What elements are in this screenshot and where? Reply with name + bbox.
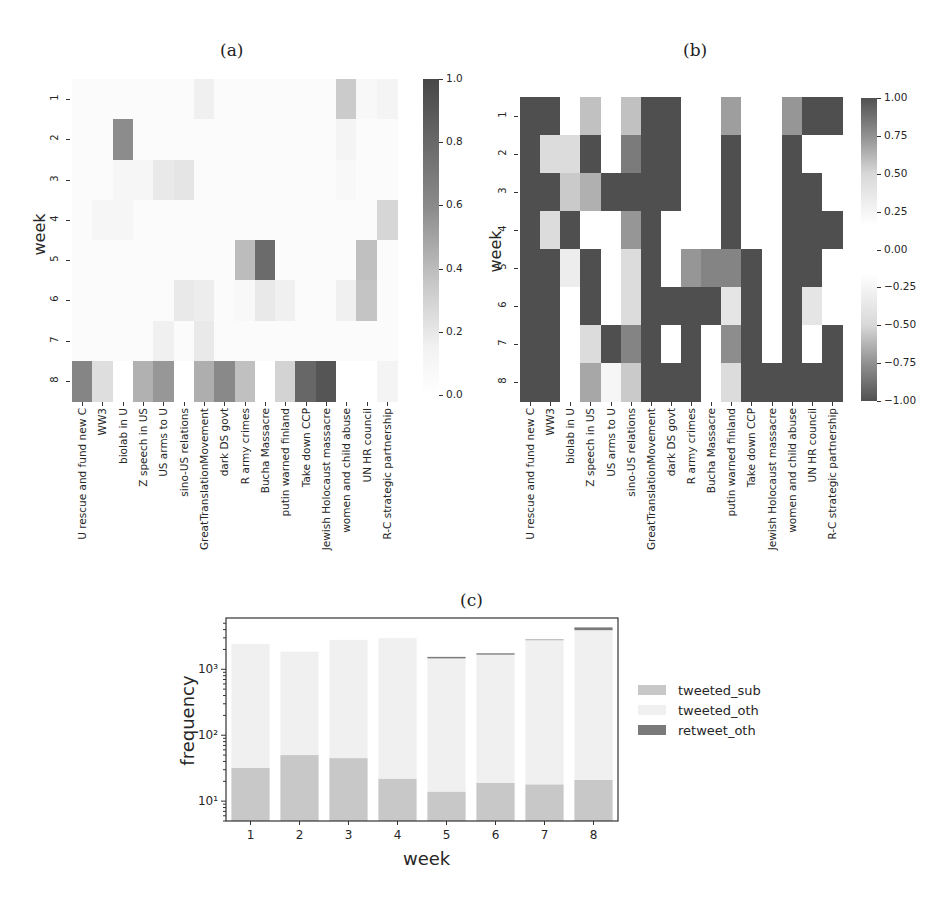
legend: tweeted_sub tweeted_oth retweet_oth — [638, 680, 761, 740]
heatmap-cell — [336, 160, 357, 201]
y-tick-mark — [514, 154, 518, 155]
heatmap-cell — [92, 119, 113, 160]
y-tick-label: 4 — [49, 212, 60, 224]
heatmap-cell — [235, 160, 256, 201]
heatmap-cell — [822, 173, 843, 212]
y-tick-mark — [66, 180, 70, 181]
x-tick-mark — [143, 402, 144, 406]
heatmap-cell — [214, 79, 235, 120]
heatmap-cell — [113, 79, 134, 120]
bar-tweeted_oth — [329, 640, 367, 758]
legend-item-tweeted-sub: tweeted_sub — [638, 680, 761, 700]
heatmap-cell — [741, 173, 762, 212]
heatmap-cell — [802, 363, 823, 402]
heatmap-cell — [681, 211, 702, 250]
heatmap-cell — [275, 119, 296, 160]
heatmap-cell — [255, 160, 276, 201]
heatmap-cell — [214, 200, 235, 241]
heatmap-cell — [641, 249, 662, 288]
heatmap-cell — [356, 79, 377, 120]
heatmap-cell — [72, 79, 93, 120]
heatmap-cell — [275, 361, 296, 402]
x-tick-mark — [590, 402, 591, 406]
y-tick-label: 10¹ — [198, 794, 218, 808]
heatmap-cell — [782, 135, 803, 174]
heatmap-cell — [194, 280, 215, 321]
legend-swatch-retweet-oth — [638, 725, 666, 735]
bar-chart-c-xlabel: week — [403, 848, 450, 869]
heatmap-cell — [540, 325, 561, 364]
heatmap-cell — [113, 160, 134, 201]
heatmap-cell — [540, 363, 561, 402]
heatmap-cell — [802, 287, 823, 326]
heatmap-cell — [153, 361, 174, 402]
heatmap-cell — [235, 79, 256, 120]
heatmap-cell — [520, 287, 541, 326]
y-tick-label: 7 — [49, 333, 60, 345]
heatmap-cell — [235, 280, 256, 321]
x-tick-mark — [82, 402, 83, 406]
heatmap-cell — [174, 321, 195, 362]
heatmap-cell — [560, 97, 581, 136]
heatmap-cell — [701, 249, 722, 288]
heatmap-cell — [356, 160, 377, 201]
heatmap-cell — [681, 249, 702, 288]
heatmap-cell — [194, 361, 215, 402]
heatmap-cell — [377, 200, 398, 241]
heatmap-cell — [235, 321, 256, 362]
x-tick-mark — [772, 402, 773, 406]
x-tick-label: sino-US relations — [178, 408, 190, 608]
heatmap-cell — [580, 211, 601, 250]
x-tick-label: R army crimes — [685, 408, 697, 608]
x-tick-label: dark DS govt — [218, 408, 230, 608]
x-tick-label: Take down CCP — [300, 408, 312, 608]
x-tick-mark — [731, 402, 732, 406]
y-tick-mark — [514, 382, 518, 383]
legend-label-tweeted-sub: tweeted_sub — [678, 683, 761, 698]
colorbar-tick-mark — [439, 395, 443, 396]
heatmap-cell — [641, 211, 662, 250]
heatmap-cell — [214, 240, 235, 281]
heatmap-cell — [741, 249, 762, 288]
colorbar-tick-label: 0.00 — [884, 243, 907, 255]
heatmap-cell — [235, 240, 256, 281]
plot-frame — [226, 618, 618, 821]
bar-tweeted_oth — [427, 658, 465, 791]
heatmap-cell — [520, 363, 541, 402]
heatmap-cell — [316, 79, 337, 120]
heatmap-cell — [802, 173, 823, 212]
x-tick-label: WW3 — [544, 408, 556, 608]
heatmap-cell — [540, 249, 561, 288]
heatmap-cell — [194, 160, 215, 201]
colorbar-tick-label: 1.0 — [446, 72, 463, 84]
heatmap-cell — [275, 200, 296, 241]
heatmap-cell — [621, 97, 642, 136]
heatmap-cell — [92, 200, 113, 241]
heatmap-cell — [153, 280, 174, 321]
heatmap-cell — [214, 160, 235, 201]
heatmap-cell — [356, 119, 377, 160]
x-tick-mark — [792, 402, 793, 406]
heatmap-cell — [194, 200, 215, 241]
x-tick-label: Bucha Massacre — [705, 408, 717, 608]
x-tick-mark — [204, 402, 205, 406]
y-tick-label: 10³ — [198, 662, 218, 676]
x-tick-label: 2 — [296, 828, 304, 842]
heatmap-cell — [194, 240, 215, 281]
heatmap-cell — [762, 173, 783, 212]
colorbar-tick-mark — [439, 332, 443, 333]
heatmap-cell — [802, 211, 823, 250]
heatmap-cell — [782, 325, 803, 364]
heatmap-cell — [621, 287, 642, 326]
heatmap-cell — [377, 361, 398, 402]
heatmap-cell — [255, 280, 276, 321]
panel-b-title: (b) — [683, 40, 707, 60]
heatmap-cell — [721, 287, 742, 326]
x-tick-label: 1 — [247, 828, 255, 842]
x-tick-label: UN HR council — [806, 408, 818, 608]
heatmap-cell — [641, 325, 662, 364]
y-tick-mark — [66, 260, 70, 261]
heatmap-cell — [802, 249, 823, 288]
colorbar-tick-label: 0.4 — [446, 262, 463, 274]
heatmap-cell — [741, 325, 762, 364]
